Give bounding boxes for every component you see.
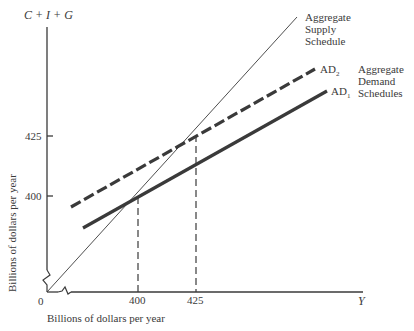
y-tick-label-400: 400: [25, 190, 42, 202]
as-label-line-1: Aggregate: [305, 11, 351, 23]
x-axis-symbol: Y: [358, 294, 366, 308]
origin-label: 0: [38, 295, 44, 307]
ad2-label: AD2: [320, 63, 340, 78]
ad2-line: [71, 69, 315, 207]
ad1-label: AD1: [331, 85, 351, 100]
as-label-line-3: Schedule: [305, 35, 345, 47]
y-axis-break: [43, 270, 50, 292]
aggregate-supply-line: [47, 17, 297, 292]
ad-group-label-line-1: Aggregate: [358, 63, 404, 75]
y-axis-title: Billions of dollars per year: [6, 174, 18, 292]
chart-canvas: C + I + G Y 0 400 425 425 400 Billions o…: [0, 0, 414, 331]
x-tick-label-425: 425: [187, 294, 204, 306]
ad1-line: [83, 91, 327, 228]
as-label-line-2: Supply: [305, 23, 337, 35]
x-axis-title: Billions of dollars per year: [47, 312, 165, 324]
y-tick-label-425: 425: [25, 130, 42, 142]
x-tick-label-400: 400: [129, 294, 146, 306]
y-axis-symbol: C + I + G: [24, 8, 73, 22]
ad-group-label-line-3: Schedules: [358, 87, 403, 99]
x-axis-break: [58, 287, 71, 294]
ad-group-label-line-2: Demand: [358, 75, 396, 87]
